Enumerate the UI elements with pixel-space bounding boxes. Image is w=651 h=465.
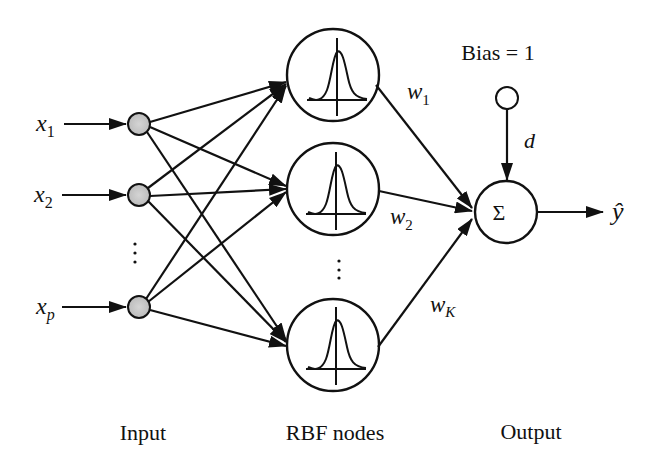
input-node-2 [128,184,150,206]
input-ellipsis [133,242,136,263]
input-node-1 [128,113,150,135]
rbf-node-2 [287,143,379,235]
rbf-node-K [287,299,379,391]
rbf-node-1 [287,29,379,121]
sum-node [475,181,537,243]
input-arrows [62,124,126,307]
input-nodes [128,113,150,318]
layer-label-rbf: RBF nodes [286,420,384,445]
sigma-icon: Σ [493,200,506,225]
output-label-yhat: ŷ [609,197,624,226]
rbf-network-diagram: x1 x2 xp w1 w2 wK Bias = 1 d [0,0,651,465]
input-label-x2: x2 [33,181,53,211]
weight-label-wK: wK [430,292,456,320]
bias-node [496,87,518,109]
bias-weight-d: d [524,128,536,153]
layer-label-output: Output [500,419,561,444]
input-label-x1: x1 [35,110,55,140]
layer-label-input: Input [120,420,166,445]
weight-label-w2: w2 [390,204,413,233]
rbf-ellipsis [337,259,340,279]
weight-label-w1: w1 [407,79,430,108]
bias-label: Bias = 1 [461,40,535,65]
input-labels: x1 x2 xp [33,110,55,324]
input-to-rbf-connections [146,82,286,346]
input-label-xp: xp [35,293,55,324]
input-node-p [128,296,150,318]
